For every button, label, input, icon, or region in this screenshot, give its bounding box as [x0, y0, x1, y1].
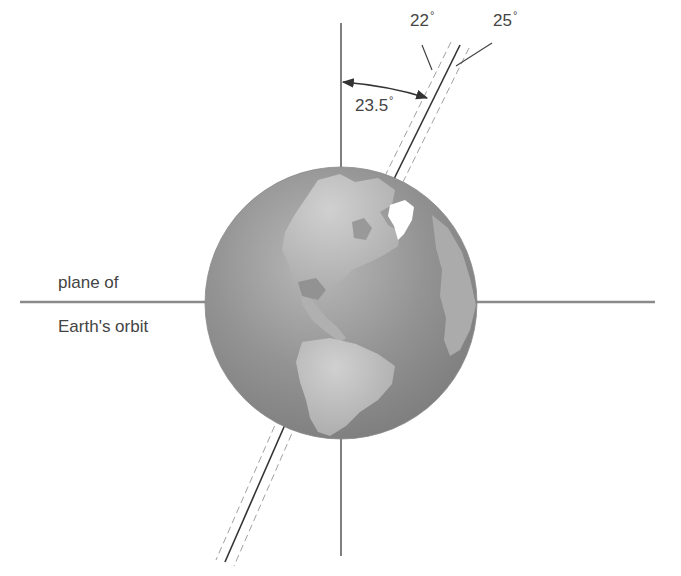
- label-tilt-angle: 23.5°: [355, 97, 394, 114]
- earth-tilt-diagram: 22° 25° 23.5° plane of Earth's orbit: [0, 0, 681, 576]
- label-tilt-max: 25°: [493, 12, 517, 29]
- earth-globe: [205, 167, 477, 439]
- label-orbit-plane-line1: plane of: [58, 274, 119, 291]
- leader-line-25: [456, 43, 492, 66]
- leader-line-22: [422, 45, 432, 70]
- label-tilt-min: 22°: [410, 12, 434, 29]
- tilted-rotation-axis-bottom: [216, 416, 296, 566]
- label-orbit-plane-line2: Earth's orbit: [58, 318, 148, 335]
- tilted-rotation-axis-top: [383, 42, 469, 186]
